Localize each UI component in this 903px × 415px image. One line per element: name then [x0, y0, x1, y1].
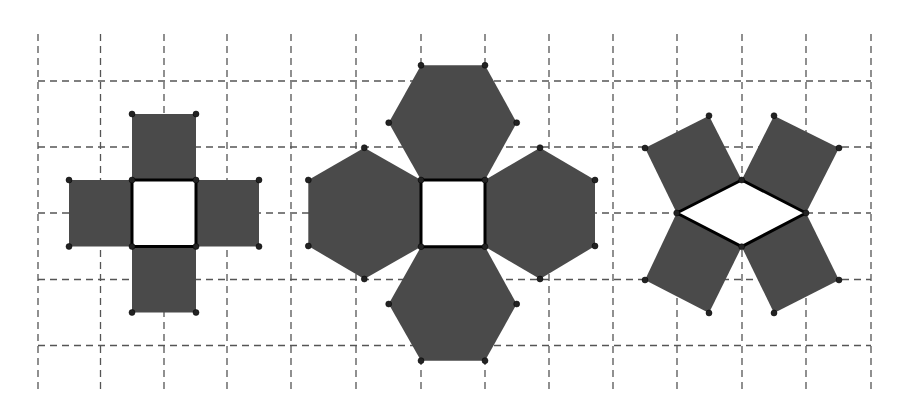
- vertex-dot: [129, 111, 135, 117]
- vertex-dot: [592, 177, 598, 183]
- vertex-dot: [706, 113, 712, 119]
- vertex-dot: [418, 177, 424, 183]
- hexagon-face: [389, 247, 517, 361]
- square-base: [421, 180, 485, 247]
- vertex-dot: [739, 177, 745, 183]
- vertex-dot: [836, 145, 842, 151]
- vertex-dot: [706, 310, 712, 316]
- vertex-dot: [674, 210, 680, 216]
- vertex-dot: [418, 244, 424, 250]
- vertex-dot: [418, 358, 424, 364]
- vertex-dot: [537, 145, 543, 151]
- vertex-dot: [256, 177, 262, 183]
- square-face: [196, 180, 259, 247]
- square-with-four-hexagons: [305, 62, 598, 363]
- square-face: [132, 114, 196, 180]
- vertex-dot: [537, 276, 543, 282]
- vertex-dot: [66, 177, 72, 183]
- vertex-dot: [129, 310, 135, 316]
- vertex-dot: [256, 244, 262, 250]
- vertex-dot: [514, 301, 520, 307]
- vertex-dot: [418, 62, 424, 68]
- vertex-dot: [771, 310, 777, 316]
- vertex-dot: [642, 277, 648, 283]
- vertex-dot: [129, 177, 135, 183]
- hexagon-face: [485, 148, 595, 279]
- vertex-dot: [305, 177, 311, 183]
- figures-group: [66, 62, 842, 363]
- vertex-dot: [836, 277, 842, 283]
- vertex-dot: [642, 145, 648, 151]
- square-face: [132, 247, 196, 313]
- vertex-dot: [514, 120, 520, 126]
- vertex-dot: [305, 243, 311, 249]
- square-with-four-squares: [66, 111, 262, 316]
- square-base: [132, 180, 196, 247]
- vertex-dot: [482, 177, 488, 183]
- vertex-dot: [193, 177, 199, 183]
- square-face: [69, 180, 132, 247]
- vertex-dot: [361, 276, 367, 282]
- hexagon-face: [389, 65, 517, 180]
- vertex-dot: [386, 120, 392, 126]
- vertex-dot: [66, 244, 72, 250]
- vertex-dot: [193, 310, 199, 316]
- vertex-dot: [482, 358, 488, 364]
- vertex-dot: [771, 113, 777, 119]
- vertex-dot: [482, 62, 488, 68]
- hexagon-face: [308, 148, 421, 279]
- vertex-dot: [193, 244, 199, 250]
- net-diagram: [0, 0, 903, 415]
- vertex-dot: [803, 210, 809, 216]
- vertex-dot: [386, 301, 392, 307]
- vertex-dot: [129, 244, 135, 250]
- vertex-dot: [193, 111, 199, 117]
- vertex-dot: [361, 145, 367, 151]
- vertex-dot: [592, 243, 598, 249]
- vertex-dot: [482, 244, 488, 250]
- vertex-dot: [739, 244, 745, 250]
